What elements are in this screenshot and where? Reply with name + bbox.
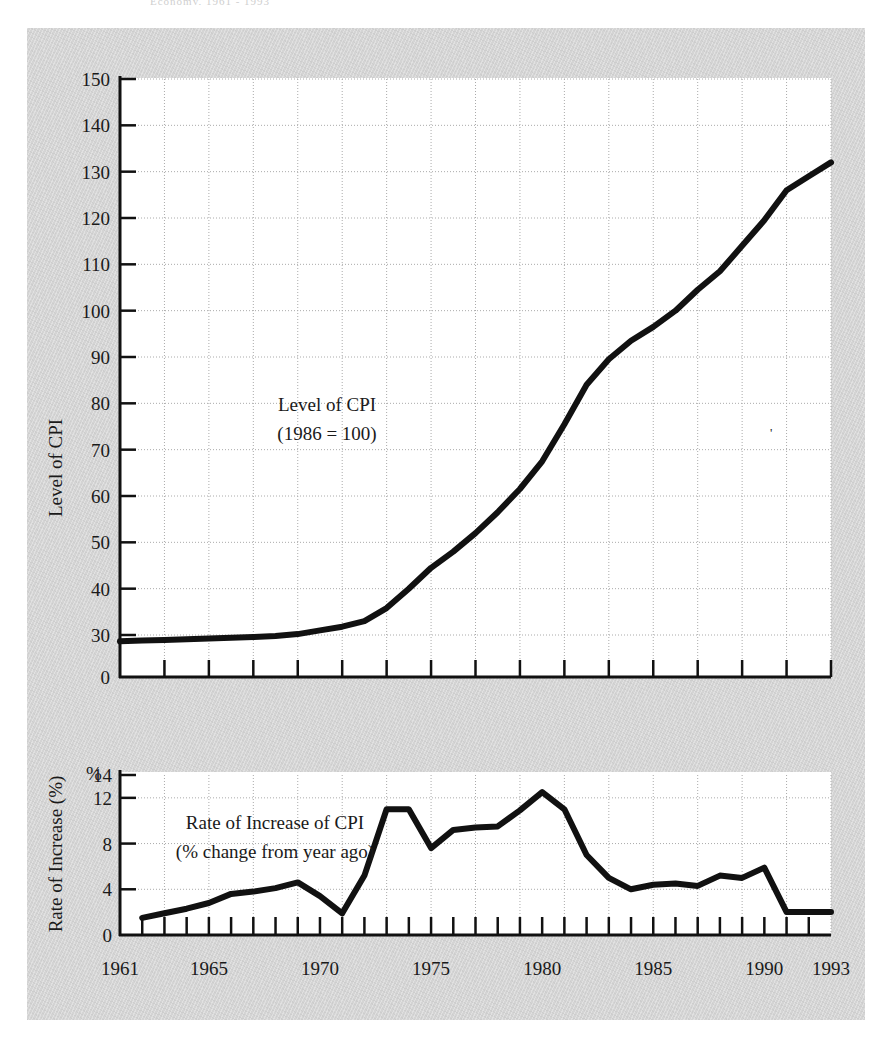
lower-annotation-line1: Rate of Increase of CPI (186, 812, 364, 833)
upper-stray-mark: ' (770, 425, 772, 440)
x-axis-year-label: 1965 (190, 958, 228, 979)
upper-y-tick-label: 30 (91, 625, 110, 646)
x-axis-year-label: 1980 (523, 958, 561, 979)
lower-chart: 0481214 Rate of Increase (%) % Rate of I… (45, 763, 850, 979)
lower-y-tick-label: 4 (103, 879, 113, 900)
upper-annotation-line1: Level of CPI (278, 394, 376, 415)
upper-y-tick-label: 150 (82, 69, 111, 90)
x-axis-year-label: 1993 (812, 958, 850, 979)
x-axis-year-label: 1970 (301, 958, 339, 979)
upper-y-tick-label: 60 (91, 486, 110, 507)
x-axis-year-label: 1985 (634, 958, 672, 979)
lower-y-axis-title: Rate of Increase (%) (45, 776, 67, 933)
lower-y-tick-label: 0 (103, 925, 113, 946)
x-axis-year-label: 1961 (101, 958, 139, 979)
lower-annotation-line2: (% change from year ago) (176, 841, 374, 863)
x-axis-year-labels: 19611965197519851993197019801990 (101, 958, 850, 979)
lower-percent-marker: % (86, 763, 102, 784)
upper-y-axis-title: Level of CPI (45, 419, 66, 517)
upper-y-tick-label: 120 (82, 208, 111, 229)
upper-y-tick-label: 70 (91, 440, 110, 461)
upper-y-tick-label: 100 (82, 301, 111, 322)
upper-y-tick-label: 90 (91, 347, 110, 368)
upper-y-tick-label: 140 (82, 115, 111, 136)
upper-y-tick-label: 40 (91, 579, 110, 600)
upper-y-tick-label: 0 (101, 667, 111, 688)
figure-root: Economy, 1961 - 1993 0304050607080901001… (0, 0, 889, 1047)
lower-y-tick-label: 12 (93, 788, 112, 809)
upper-y-tick-label: 110 (82, 254, 110, 275)
upper-y-tick-labels: 030405060708090100110120130140150 (82, 69, 111, 688)
x-axis-year-label: 1990 (745, 958, 783, 979)
upper-chart: 030405060708090100110120130140150 Level … (45, 69, 831, 688)
lower-y-tick-labels: 0481214 (93, 765, 113, 946)
upper-y-tick-label: 130 (82, 162, 111, 183)
upper-y-tick-label: 80 (91, 393, 110, 414)
upper-annotation-line2: (1986 = 100) (277, 423, 376, 445)
lower-y-tick-label: 8 (103, 834, 113, 855)
charts-svg: 030405060708090100110120130140150 Level … (0, 0, 889, 1047)
upper-plot-background (120, 78, 831, 678)
upper-y-tick-label: 50 (91, 532, 110, 553)
x-axis-year-label: 1975 (412, 958, 450, 979)
